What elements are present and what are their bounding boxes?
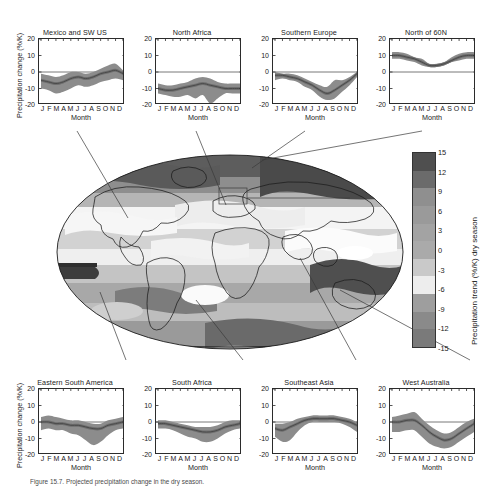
ytick: 20 (261, 35, 269, 42)
ytick: -20 (376, 101, 386, 108)
colorbar-tick: 3 (438, 226, 442, 235)
ytick: -10 (25, 434, 35, 441)
ytick: -10 (259, 434, 269, 441)
colorbar-band-6 (413, 259, 435, 277)
colorbar-band-10 (413, 329, 435, 347)
x-axis-label: Month (272, 113, 358, 122)
x-axis-label: Month (38, 463, 124, 472)
ytick: 0 (31, 418, 35, 425)
ytick: 20 (261, 385, 269, 392)
x-axis-label: Month (389, 463, 475, 472)
ytick: 10 (27, 401, 35, 408)
colorbar-tick: -15 (438, 344, 449, 353)
plot-area (272, 388, 358, 454)
y-axis-ticks: 20 10 0 -10 -20 (133, 388, 153, 454)
colorbar-band-3 (413, 206, 435, 224)
panel-north-africa: North Africa 20 10 0 -10 -20 JFMAMJJASON… (133, 28, 251, 96)
x-axis-label: Month (155, 463, 241, 472)
ytick: 10 (144, 401, 152, 408)
colorbar-band-4 (413, 224, 435, 242)
colorbar-ticks: 15129630-3-6-9-12-15 (438, 152, 464, 348)
figure-caption: Figure 15.7. Projected precipitation cha… (30, 478, 470, 489)
colorbar-tick: 0 (438, 246, 442, 255)
ytick: -10 (142, 434, 152, 441)
ytick: 10 (261, 51, 269, 58)
colorbar-tick: -3 (438, 265, 445, 274)
y-axis-ticks: 20 10 0 -10 -20 (367, 388, 387, 454)
ytick: -10 (25, 84, 35, 91)
ytick: 10 (27, 51, 35, 58)
panel-west-australia: West Australia 20 10 0 -10 -20 JFMAMJJAS… (367, 378, 485, 446)
ytick: 0 (148, 418, 152, 425)
ytick: -20 (259, 101, 269, 108)
colorbar (412, 152, 436, 348)
ytick: 20 (27, 385, 35, 392)
colorbar-tick: -9 (438, 304, 445, 313)
plot-area (155, 388, 241, 454)
colorbar-tick: 15 (438, 148, 446, 157)
x-axis-label: Month (38, 113, 124, 122)
ytick: 0 (382, 68, 386, 75)
ytick: -20 (376, 451, 386, 458)
x-axis-label: Month (155, 113, 241, 122)
panel-southern-europe: Southern Europe 20 10 0 -10 -20 JFMAMJJA… (250, 28, 368, 96)
colorbar-band-7 (413, 276, 435, 294)
figure-root: Mexico and SW US 20 10 0 -10 -20 Precipi… (0, 0, 493, 490)
ytick: 20 (378, 385, 386, 392)
ytick: -10 (376, 434, 386, 441)
plot-area (38, 38, 124, 104)
ytick: -20 (259, 451, 269, 458)
y-axis-ticks: 20 10 0 -10 -20 (250, 388, 270, 454)
ytick: 10 (261, 401, 269, 408)
panel-southeast-asia: Southeast Asia 20 10 0 -10 -20 JFMAMJJAS… (250, 378, 368, 446)
colorbar-band-9 (413, 312, 435, 330)
ytick: 0 (382, 418, 386, 425)
plot-area (155, 38, 241, 104)
world-map (55, 145, 405, 360)
y-axis-ticks: 20 10 0 -10 -20 (367, 38, 387, 104)
colorbar-tick: 9 (438, 187, 442, 196)
ytick: -10 (376, 84, 386, 91)
panel-mexico-sw-us: Mexico and SW US 20 10 0 -10 -20 Precipi… (16, 28, 134, 96)
x-axis-label: Month (389, 113, 475, 122)
ytick: 10 (144, 51, 152, 58)
ytick: -20 (142, 101, 152, 108)
y-axis-ticks: 20 10 0 -10 -20 (250, 38, 270, 104)
ytick: 0 (148, 68, 152, 75)
plot-area (389, 388, 475, 454)
colorbar-band-8 (413, 294, 435, 312)
panel-north-of-60n: North of 60N 20 10 0 -10 -20 JFMAMJJASON… (367, 28, 485, 96)
ytick: -20 (25, 451, 35, 458)
plot-area (389, 38, 475, 104)
colorbar-tick: 6 (438, 206, 442, 215)
colorbar-band-2 (413, 188, 435, 206)
colorbar-tick: -6 (438, 285, 445, 294)
ytick: 20 (378, 35, 386, 42)
ytick: -10 (259, 84, 269, 91)
colorbar-band-5 (413, 241, 435, 259)
ytick: 20 (144, 385, 152, 392)
ytick: 0 (265, 418, 269, 425)
ytick: 20 (144, 35, 152, 42)
ytick: 0 (31, 68, 35, 75)
ytick: -20 (25, 101, 35, 108)
y-axis-label: Precipitation change (%/K) (15, 383, 24, 468)
ytick: 10 (378, 51, 386, 58)
plot-area (38, 388, 124, 454)
panel-south-africa: South Africa 20 10 0 -10 -20 JFMAMJJASON… (133, 378, 251, 446)
ytick: -20 (142, 451, 152, 458)
colorbar-band-1 (413, 171, 435, 189)
colorbar-band-0 (413, 153, 435, 171)
colorbar-tick: -12 (438, 324, 449, 333)
ytick: -10 (142, 84, 152, 91)
ytick: 20 (27, 35, 35, 42)
y-axis-label: Precipitation change (%/K) (15, 33, 24, 118)
ytick: 0 (265, 68, 269, 75)
panel-eastern-south-america: Eastern South America 20 10 0 -10 -20 Pr… (16, 378, 134, 446)
x-axis-label: Month (272, 463, 358, 472)
y-axis-ticks: 20 10 0 -10 -20 (133, 38, 153, 104)
plot-area (272, 38, 358, 104)
ytick: 10 (378, 401, 386, 408)
colorbar-tick: 12 (438, 167, 446, 176)
colorbar-label: Precipitation trend (%/K) dry season (470, 217, 479, 345)
